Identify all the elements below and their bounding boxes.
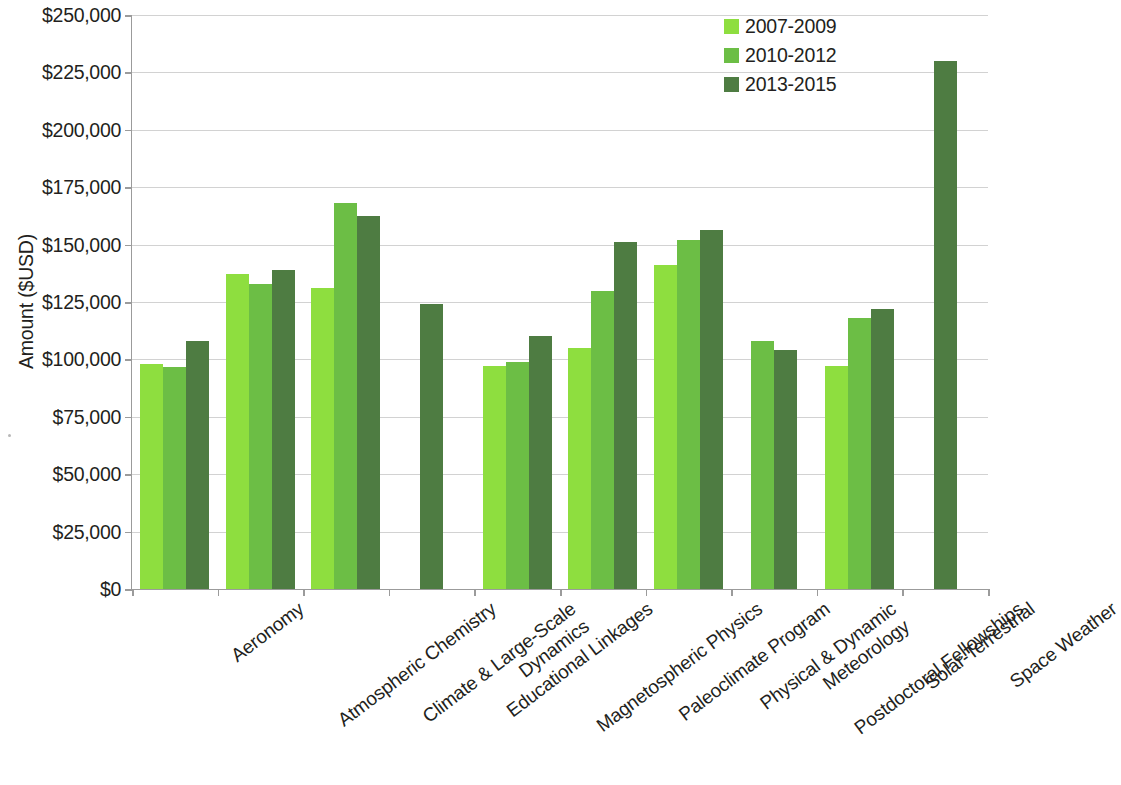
bar-group: [132, 15, 218, 589]
y-axis-tick: [125, 72, 132, 74]
y-axis-tick-label: $50,000: [53, 463, 121, 486]
bar: [825, 366, 848, 589]
y-axis-tick-label: $125,000: [42, 291, 121, 314]
bar-group: [389, 15, 475, 589]
bar-group: [474, 15, 560, 589]
bar: [483, 366, 506, 589]
legend-label: 2007-2009: [745, 15, 836, 38]
bar: [357, 216, 380, 589]
x-axis-category-label: Aeronomy: [227, 598, 308, 667]
legend-item: 2010-2012: [724, 41, 836, 70]
chart-legend: 2007-20092010-20122013-2015: [724, 12, 836, 99]
x-axis-tick: [817, 589, 819, 596]
bar: [700, 230, 723, 589]
y-axis-tick-label: $100,000: [42, 348, 121, 371]
y-axis-tick: [125, 302, 132, 304]
legend-swatch-icon: [724, 77, 739, 92]
bar-group: [902, 15, 988, 589]
y-axis-tick: [125, 474, 132, 476]
y-axis-tick-label: $175,000: [42, 176, 121, 199]
x-axis-tick: [646, 589, 648, 596]
bar-group: [817, 15, 903, 589]
bar: [249, 284, 272, 589]
bar: [848, 318, 871, 589]
legend-label: 2013-2015: [745, 73, 836, 96]
bar: [311, 288, 334, 589]
legend-item: 2013-2015: [724, 70, 836, 99]
y-axis-tick: [125, 15, 132, 17]
bar: [591, 291, 614, 589]
y-axis-tick-label: $75,000: [53, 405, 121, 428]
y-axis-tick: [125, 359, 132, 361]
bar: [677, 240, 700, 589]
x-axis-tick: [218, 589, 220, 596]
x-axis-tick: [303, 589, 305, 596]
x-axis-tick: [389, 589, 391, 596]
bar: [751, 341, 774, 589]
y-axis-tick-label: $25,000: [53, 520, 121, 543]
x-axis-tick: [902, 589, 904, 596]
bar: [186, 341, 209, 589]
bar: [506, 362, 529, 589]
bar: [934, 61, 957, 589]
y-axis-tick: [125, 245, 132, 247]
bar: [529, 336, 552, 589]
legend-swatch-icon: [724, 48, 739, 63]
bar-group: [303, 15, 389, 589]
bar-group: [646, 15, 732, 589]
y-axis-tick: [125, 417, 132, 419]
y-axis-tick: [125, 589, 132, 591]
legend-swatch-icon: [724, 19, 739, 34]
y-axis-tick-label: $150,000: [42, 233, 121, 256]
y-axis-tick-label: $225,000: [42, 61, 121, 84]
y-axis-tick: [125, 532, 132, 534]
bar: [163, 367, 186, 589]
bar-group: [731, 15, 817, 589]
legend-label: 2010-2012: [745, 44, 836, 67]
bar: [334, 203, 357, 589]
x-axis-tick: [731, 589, 733, 596]
bar: [568, 348, 591, 589]
bar: [226, 274, 249, 589]
x-axis-tick: [132, 589, 134, 596]
y-axis-title: Amount ($USD): [15, 182, 38, 422]
bar: [774, 350, 797, 589]
bar: [614, 242, 637, 589]
bar: [140, 364, 163, 589]
y-axis-tick: [125, 187, 132, 189]
plot-area: $250,000$225,000$200,000$175,000$150,000…: [131, 15, 988, 590]
y-axis-tick: [125, 130, 132, 132]
bar: [654, 265, 677, 589]
bar: [871, 309, 894, 589]
x-axis-tick: [560, 589, 562, 596]
bar-group: [560, 15, 646, 589]
image-artifact-speck: [8, 434, 11, 437]
bar-group: [218, 15, 304, 589]
x-axis-tick: [988, 589, 990, 596]
y-axis-tick-label: $250,000: [42, 4, 121, 27]
x-axis-tick: [474, 589, 476, 596]
y-axis-tick-label: $0: [100, 578, 121, 601]
y-axis-tick-label: $200,000: [42, 118, 121, 141]
bar: [272, 270, 295, 589]
bar: [420, 304, 443, 589]
legend-item: 2007-2009: [724, 12, 836, 41]
